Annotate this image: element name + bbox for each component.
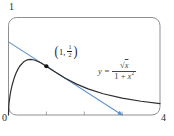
fraction-numerator: 1 xyxy=(67,44,72,52)
point-y-fraction: 1 2 xyxy=(67,44,72,59)
curve-equation-label: y = √x 1 + x2 xyxy=(98,61,136,82)
equation-lhs: y = xyxy=(98,66,110,76)
y-max-label: 1 xyxy=(9,2,14,12)
point-x-coordinate: 1, xyxy=(59,47,65,57)
x-ticks xyxy=(46,112,122,116)
equation-numerator: √x xyxy=(118,61,130,71)
point-marker xyxy=(44,64,48,68)
x-max-label: 4 xyxy=(161,113,166,123)
open-paren: ( xyxy=(55,44,59,58)
origin-label: 0 xyxy=(2,113,7,123)
close-paren: ) xyxy=(74,44,78,58)
curve-path xyxy=(9,59,161,115)
equation-denominator: 1 + x2 xyxy=(112,71,136,82)
point-coordinates-label: ( 1, 1 2 ) xyxy=(54,44,78,59)
equation-fraction: √x 1 + x2 xyxy=(112,61,136,82)
graph-canvas xyxy=(0,0,174,136)
fraction-denominator: 2 xyxy=(68,52,71,59)
